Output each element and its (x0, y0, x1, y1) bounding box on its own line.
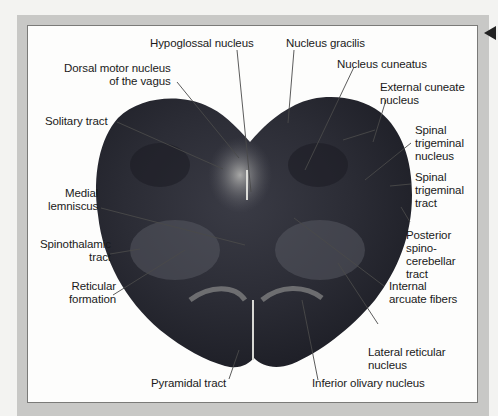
label-nucleus-cuneatus: Nucleus cuneatus (337, 58, 427, 71)
label-reticular-formation: Reticular formation (69, 280, 116, 306)
label-posterior-spinocerebellar-tract: Posterior spino- cerebellar tract (406, 229, 456, 281)
label-inferior-olivary-nucleus: Inferior olivary nucleus (312, 377, 425, 390)
label-internal-arcuate-fibers: Internal arcuate fibers (389, 280, 457, 306)
label-medial-lemniscus: Medial lemniscus (48, 187, 98, 213)
label-solitary-tract: Solitary tract (45, 115, 108, 128)
label-spinothalamic-tract: Spinothalamic tract (40, 238, 111, 264)
label-nucleus-gracilis: Nucleus gracilis (286, 37, 365, 50)
label-external-cuneate-nucleus: External cuneate nucleus (380, 81, 465, 107)
label-spinal-trigeminal-nucleus: Spinal trigeminal nucleus (415, 124, 464, 163)
label-pyramidal-tract: Pyramidal tract (151, 377, 226, 390)
label-lateral-reticular-nucleus: Lateral reticular nucleus (368, 346, 446, 372)
label-spinal-trigeminal-tract: Spinal trigeminal tract (415, 171, 464, 210)
label-dorsal-motor-nucleus-vagus: Dorsal motor nucleus of the vagus (64, 62, 171, 88)
label-hypoglossal-nucleus: Hypoglossal nucleus (150, 37, 254, 50)
